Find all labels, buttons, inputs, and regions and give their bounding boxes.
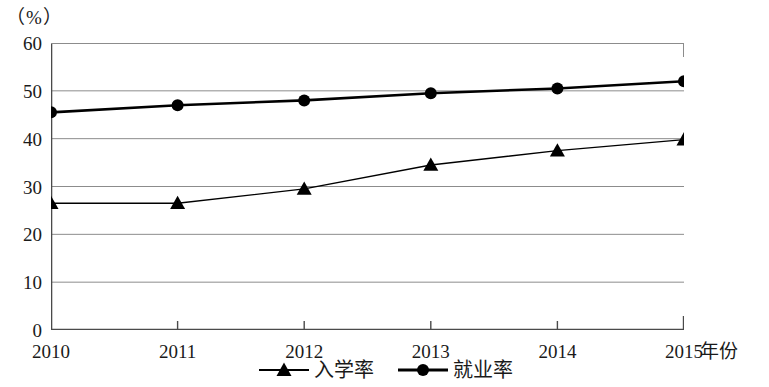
y-axis-tick-label: 0 xyxy=(33,321,43,340)
y-axis-tick-label: 50 xyxy=(23,81,42,100)
x-axis-tick-label: 2010 xyxy=(32,342,70,361)
data-point-marker xyxy=(51,196,59,209)
circle-marker-icon xyxy=(396,360,450,380)
y-axis-tick-label: 10 xyxy=(23,273,42,292)
x-axis-title: 年份 xyxy=(700,342,738,361)
legend-label: 入学率 xyxy=(314,360,374,380)
triangle-marker-icon xyxy=(257,360,311,380)
x-axis-tick-label: 2013 xyxy=(412,342,450,361)
x-axis-tick-label: 2014 xyxy=(538,342,576,361)
legend-entry: 就业率 xyxy=(396,360,513,380)
series-enrollment xyxy=(51,132,684,209)
x-axis-tick-label: 2015 xyxy=(665,342,703,361)
series-line xyxy=(51,140,684,204)
plot-area xyxy=(51,43,684,330)
y-axis-unit-label: （%） xyxy=(6,2,63,29)
data-point-marker xyxy=(51,106,57,118)
data-point-marker xyxy=(298,94,310,106)
y-axis-tick-label: 30 xyxy=(23,177,42,196)
data-point-marker xyxy=(425,87,437,99)
y-axis-tick-label: 60 xyxy=(23,34,42,53)
chart-legend: 入学率就业率 xyxy=(0,360,769,380)
plot-svg xyxy=(51,43,684,330)
legend-label: 就业率 xyxy=(453,360,513,380)
y-axis-tick-label: 20 xyxy=(23,225,42,244)
gridlines xyxy=(51,43,684,282)
y-axis-tick-label: 40 xyxy=(23,129,42,148)
legend-marker xyxy=(417,364,429,376)
x-axis-tick-label: 2011 xyxy=(159,342,196,361)
data-point-marker xyxy=(678,75,684,87)
data-point-marker xyxy=(551,82,563,94)
data-point-marker xyxy=(172,99,184,111)
series-employment xyxy=(51,75,684,118)
line-chart: （%） 0102030405060 2010201120122013201420… xyxy=(0,0,769,387)
legend-entry: 入学率 xyxy=(257,360,374,380)
series-line xyxy=(51,81,684,112)
